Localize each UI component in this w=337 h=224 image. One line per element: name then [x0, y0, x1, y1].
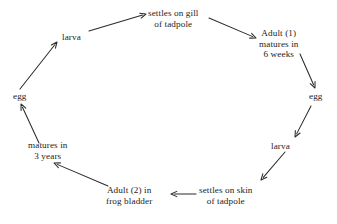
- arrow-settles-on-skin-to-adult-2: [171, 191, 196, 196]
- node-label-line: Adult (2) in: [106, 185, 152, 196]
- node-label-line: frog bladder: [106, 196, 152, 207]
- node-label-line: larva: [62, 32, 81, 43]
- node-label-line: of tadpole: [148, 19, 199, 30]
- node-label-line: of tadpole: [199, 196, 253, 207]
- node-egg-right: egg: [309, 91, 323, 102]
- arrow-egg-left-to-larva-left: [20, 42, 57, 89]
- arrow-shaft: [209, 18, 253, 37]
- arrow-egg-right-to-larva-right: [295, 106, 311, 137]
- node-egg-left: egg: [13, 91, 27, 102]
- node-label-line: Adult (1): [259, 28, 299, 39]
- node-label-line: settles on skin: [199, 185, 253, 196]
- node-label-line: matures in: [259, 39, 299, 50]
- arrow-shaft: [57, 164, 108, 186]
- arrow-shaft: [297, 106, 311, 134]
- node-label-line: egg: [309, 91, 323, 102]
- arrow-shaft: [20, 45, 55, 89]
- node-settles-on-gill: settles on gillof tadpole: [148, 8, 199, 29]
- arrow-adult-1-to-egg-right: [300, 54, 315, 88]
- node-adult-2: Adult (2) infrog bladder: [106, 185, 152, 206]
- life-cycle-diagram: settles on gillof tadpoleAdult (1)mature…: [0, 0, 337, 224]
- arrow-larva-left-to-settles-on-gill: [89, 13, 146, 31]
- node-adult-1: Adult (1)matures in6 weeks: [259, 28, 299, 60]
- node-label-line: 3 years: [28, 151, 68, 162]
- node-larva-left: larva: [62, 32, 81, 43]
- arrow-shaft: [89, 15, 143, 31]
- arrow-adult-2-to-matures-3-years: [54, 163, 108, 186]
- arrow-shaft: [300, 54, 314, 85]
- node-label-line: matures in: [28, 140, 68, 151]
- arrow-settles-on-gill-to-adult-1: [209, 18, 256, 38]
- arrow-shaft: [22, 107, 39, 143]
- node-label-line: settles on gill: [148, 8, 199, 19]
- arrow-larva-right-to-settles-on-skin: [261, 152, 285, 180]
- node-label-line: larva: [271, 141, 290, 152]
- node-larva-right: larva: [271, 141, 290, 152]
- arrow-shaft: [263, 152, 285, 177]
- node-matures-in-3-years: matures in3 years: [28, 140, 68, 161]
- node-settles-on-skin: settles on skinof tadpole: [199, 185, 253, 206]
- node-label-line: 6 weeks: [259, 49, 299, 60]
- arrow-matures-3-years-to-egg-left: [21, 104, 39, 143]
- node-label-line: egg: [13, 91, 27, 102]
